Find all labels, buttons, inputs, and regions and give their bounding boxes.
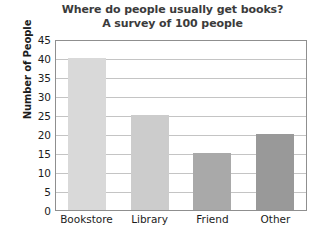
- y-axis-tick-label: 5: [0, 187, 51, 198]
- y-axis-tick-label: 10: [0, 168, 51, 179]
- x-axis-tick-label: Library: [118, 214, 181, 226]
- x-axis-tick-label: Friend: [181, 214, 244, 226]
- y-axis-tick-label: 15: [0, 149, 51, 160]
- y-axis-tick-label: 35: [0, 73, 51, 84]
- bar-series: [56, 41, 306, 210]
- bar[interactable]: [131, 115, 169, 210]
- bar[interactable]: [193, 153, 231, 210]
- y-axis-tick-labels: 454035302520151050: [0, 40, 51, 211]
- bar[interactable]: [256, 134, 294, 210]
- y-axis-tick-label: 0: [0, 206, 51, 217]
- bar-slot: [56, 41, 119, 210]
- bar-slot: [181, 41, 244, 210]
- chart-title-main: Where do people usually get books?: [30, 3, 315, 17]
- y-axis-tick-label: 45: [0, 35, 51, 46]
- bar-slot: [244, 41, 307, 210]
- chart-subtitle: A survey of 100 people: [30, 17, 315, 31]
- x-axis-tick-label: Bookstore: [55, 214, 118, 226]
- bar-slot: [119, 41, 182, 210]
- x-axis-tick-labels: BookstoreLibraryFriendOther: [55, 214, 307, 226]
- plot-area: [55, 40, 307, 211]
- bar[interactable]: [68, 58, 106, 210]
- chart-title: Where do people usually get books? A sur…: [30, 3, 315, 30]
- y-axis-tick-label: 30: [0, 92, 51, 103]
- y-axis-tick-label: 40: [0, 54, 51, 65]
- y-axis-tick-label: 25: [0, 111, 51, 122]
- bar-chart-figure: Where do people usually get books? A sur…: [0, 0, 324, 236]
- y-axis-tick-label: 20: [0, 130, 51, 141]
- x-axis-tick-label: Other: [244, 214, 307, 226]
